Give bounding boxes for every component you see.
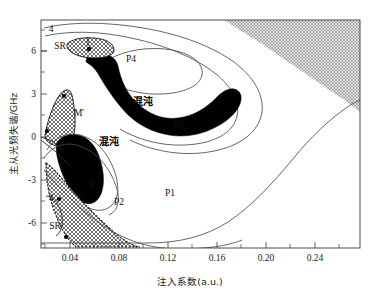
y-tick-label-3: -3 xyxy=(28,175,36,185)
region-label-sr-lower: SR xyxy=(49,221,61,231)
region-label-p4: P4 xyxy=(126,54,136,64)
sr-lower-node-marker xyxy=(57,197,61,201)
x-tick-label-0: 0.04 xyxy=(62,253,79,263)
sr-cap-node-marker xyxy=(87,47,91,51)
region-label-sr-upper: SR xyxy=(54,41,66,51)
x-tick-label-3: 0.16 xyxy=(209,253,226,263)
locking-node-marker-2 xyxy=(62,94,66,98)
y-tick-label-4: -6 xyxy=(28,218,36,228)
x-tick-label-1: 0.08 xyxy=(111,253,128,263)
y-tick-label-0: 6 xyxy=(31,46,36,56)
sr-lower-node-marker-2 xyxy=(64,235,68,239)
region-label-p2-lower: P2 xyxy=(114,197,124,207)
y-tick-label-2: 0 xyxy=(31,132,36,142)
y-axis-title: 主从光频失谐/GHz xyxy=(8,93,19,176)
stability-map-chart: 0.04 0.08 0.12 0.16 0.20 0.24 6 3 0 -3 -… xyxy=(0,0,378,295)
y-tick-label-1: 3 xyxy=(31,89,36,99)
locking-node-marker xyxy=(45,129,49,133)
x-tick-label-4: 0.20 xyxy=(258,253,275,263)
x-tick-label-2: 0.12 xyxy=(160,253,177,263)
x-axis-title: 注入系数(a.u.) xyxy=(157,276,222,287)
region-label-p1: P1 xyxy=(165,188,175,198)
region-label-chaos-upper: 混沌 xyxy=(133,95,153,107)
region-label-p2-upper: P2 xyxy=(173,119,183,129)
region-label-chaos-lower: 混沌 xyxy=(99,135,119,147)
figure-container: 0.04 0.08 0.12 0.16 0.20 0.24 6 3 0 -3 -… xyxy=(0,0,378,295)
annotation-label-4-lower: 4 xyxy=(49,193,54,203)
region-label-m-prime: M' xyxy=(74,108,84,118)
annotation-label-4-upper: 4 xyxy=(49,24,54,34)
x-tick-label-5: 0.24 xyxy=(307,253,324,263)
region-label-s: S xyxy=(89,180,94,190)
